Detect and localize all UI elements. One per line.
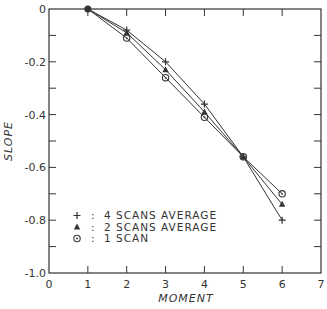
legend-label: 4 SCANS AVERAGE	[104, 209, 217, 221]
legend-label: 2 SCANS AVERAGE	[104, 221, 217, 233]
series-1-scan	[88, 9, 285, 197]
y-tick-label: -1.0	[25, 267, 46, 280]
x-tick-label: 6	[279, 278, 286, 291]
series-line	[88, 9, 282, 220]
series-4-scans-average	[88, 9, 286, 224]
legend: :4 SCANS AVERAGE:2 SCANS AVERAGE:1 SCAN	[74, 209, 218, 244]
series-line	[88, 9, 282, 204]
x-tick-label: 0	[46, 278, 53, 291]
legend-separator: :	[91, 232, 96, 244]
circle-marker-dot	[76, 238, 78, 240]
y-tick-label: -0.4	[25, 109, 46, 122]
legend-separator: :	[91, 221, 96, 233]
circle-marker-dot	[204, 116, 206, 118]
y-tick-label: -0.6	[25, 161, 46, 174]
slope-vs-moment-chart: 01234567 0-0.2-0.4-0.6-0.8-1.0 MOMENT SL…	[0, 0, 327, 309]
x-tick-label: 5	[240, 278, 247, 291]
y-tick-label: -0.2	[25, 56, 46, 69]
plus-marker-icon	[279, 217, 286, 224]
circle-marker-dot	[126, 37, 128, 39]
legend-item: :1 SCAN	[74, 232, 149, 244]
plus-marker-icon	[74, 212, 81, 219]
x-tick-label: 3	[162, 278, 169, 291]
data-series	[84, 6, 285, 224]
x-tick-label: 7	[318, 278, 325, 291]
y-tick-label: -0.8	[25, 214, 46, 227]
circle-marker-dot	[165, 77, 167, 79]
x-axis-title: MOMENT	[158, 292, 214, 305]
legend-label: 1 SCAN	[104, 232, 149, 244]
y-tick-label: 0	[39, 3, 46, 16]
x-tick-label: 1	[84, 278, 91, 291]
legend-item: :4 SCANS AVERAGE	[74, 209, 218, 221]
origin-point-marker	[84, 6, 91, 13]
y-axis-title: SLOPE	[2, 121, 15, 161]
legend-separator: :	[91, 209, 96, 221]
plot-border	[49, 9, 321, 273]
plot-frame	[49, 9, 321, 273]
y-axis-ticks: 0-0.2-0.4-0.6-0.8-1.0	[25, 3, 321, 280]
x-tick-label: 4	[201, 278, 208, 291]
circle-marker-dot	[281, 193, 283, 195]
legend-item: :2 SCANS AVERAGE	[74, 221, 217, 233]
x-axis-ticks: 01234567	[46, 9, 325, 291]
circle-marker-dot	[242, 156, 244, 158]
series-line	[88, 9, 282, 194]
triangle-marker-icon	[74, 224, 80, 230]
x-tick-label: 2	[123, 278, 130, 291]
